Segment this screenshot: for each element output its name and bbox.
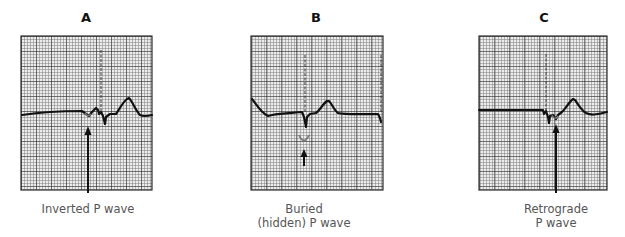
panel-label-a: A [71, 10, 101, 25]
ecg-strip-c [479, 36, 607, 193]
caption-c-line-2: P wave [506, 216, 606, 230]
panel-label-b: B [301, 10, 331, 25]
caption-a-line-1: Inverted P wave [38, 202, 138, 216]
caption-b-line-1: Buried [254, 202, 354, 216]
caption-b: Buried (hidden) P wave [254, 202, 354, 230]
ecg-strip-b [251, 36, 383, 190]
caption-c-line-1: Retrograde [506, 202, 606, 216]
caption-b-line-2: (hidden) P wave [254, 216, 354, 230]
caption-a: Inverted P wave [38, 202, 138, 216]
ecg-strip-a [21, 36, 152, 193]
caption-c: Retrograde P wave [506, 202, 606, 230]
panel-label-c: C [529, 10, 559, 25]
